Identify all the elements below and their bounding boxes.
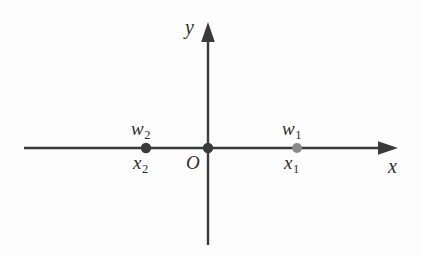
- y-axis-arrowhead: [201, 22, 215, 42]
- label-w2-base: w: [131, 118, 144, 139]
- label-w2-subscript: 2: [144, 128, 150, 142]
- y-axis-label: y: [185, 17, 194, 37]
- origin-point: [203, 143, 213, 153]
- label-w1: w1: [282, 119, 301, 138]
- label-x1-subscript: 1: [293, 162, 299, 176]
- figure-canvas: w2 x2 O w1 x1 y x: [0, 0, 421, 256]
- label-w1-base: w: [282, 118, 295, 139]
- label-origin-text: O: [186, 152, 200, 173]
- label-x2-base: x: [133, 152, 141, 173]
- x-axis-label: x: [388, 156, 397, 176]
- point-x2: [141, 143, 151, 153]
- label-w2: w2: [131, 119, 150, 138]
- x-axis-arrowhead: [378, 141, 398, 155]
- label-x2-subscript: 2: [142, 162, 148, 176]
- label-x2: x2: [133, 153, 148, 172]
- label-x1: x1: [284, 153, 299, 172]
- y-axis-label-text: y: [185, 16, 194, 38]
- axes-drawing: [0, 0, 421, 256]
- label-x1-base: x: [284, 152, 292, 173]
- x-axis-label-text: x: [388, 155, 397, 177]
- label-w1-subscript: 1: [295, 128, 301, 142]
- point-x1: [292, 143, 302, 153]
- label-origin: O: [186, 153, 200, 172]
